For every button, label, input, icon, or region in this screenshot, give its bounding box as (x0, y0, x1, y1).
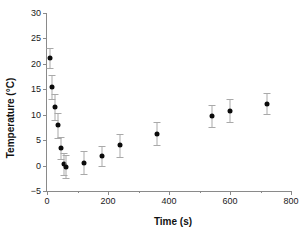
scatter-marker (63, 164, 68, 169)
error-bar-cap (117, 157, 124, 158)
y-tick-label: −5 (31, 187, 41, 196)
scatter-marker (55, 123, 60, 128)
x-tick (47, 191, 48, 195)
x-tick-minor (78, 191, 79, 193)
chart-figure: Temperature (°C) −5051015202530 02004006… (0, 0, 306, 235)
error-bar-cap (80, 151, 87, 152)
scatter-marker (48, 55, 53, 60)
error-bar-cap (62, 178, 69, 179)
scatter-marker (52, 105, 57, 110)
error-bar-cap (47, 68, 54, 69)
error-bar-cap (208, 105, 215, 106)
error-bar-cap (47, 48, 54, 49)
error-bar-cap (80, 174, 87, 175)
y-tick-label: 5 (36, 136, 41, 145)
error-bar-cap (98, 166, 105, 167)
error-bar-cap (57, 137, 64, 138)
error-bar-cap (51, 94, 58, 95)
y-tick-label: 20 (31, 59, 41, 68)
y-tick-label: 30 (31, 9, 41, 18)
error-bar-cap (263, 93, 270, 94)
x-tick-minor (139, 191, 140, 193)
error-bar-cap (48, 75, 55, 76)
x-tick (169, 191, 170, 195)
scatter-marker (264, 101, 269, 106)
scatter-marker (49, 85, 54, 90)
error-bar-cap (117, 134, 124, 135)
error-bar-cap (227, 99, 234, 100)
x-tick (291, 191, 292, 195)
y-axis-title: Temperature (°C) (2, 0, 18, 235)
scatter-marker (209, 113, 214, 118)
y-tick-label: 10 (31, 110, 41, 119)
y-tick-label: 0 (36, 161, 41, 170)
x-tick (108, 191, 109, 195)
x-tick-minor (200, 191, 201, 193)
error-bar-cap (54, 113, 61, 114)
x-tick-label: 400 (161, 197, 176, 206)
x-axis-title: Time (s) (0, 216, 306, 227)
x-axis-title-text: Time (s) (114, 216, 192, 227)
x-tick-label: 800 (283, 197, 298, 206)
y-tick-label: 15 (31, 85, 41, 94)
error-bar-cap (60, 153, 67, 154)
x-tick-label: 200 (100, 197, 115, 206)
scatter-marker (58, 146, 63, 151)
x-tick-minor (261, 191, 262, 193)
error-bar-cap (227, 122, 234, 123)
y-axis-title-text: Temperature (°C) (5, 77, 16, 158)
error-bar-cap (208, 127, 215, 128)
error-bar-cap (62, 155, 69, 156)
error-bar-cap (153, 145, 160, 146)
error-bar-cap (263, 114, 270, 115)
scatter-marker (118, 143, 123, 148)
x-tick (230, 191, 231, 195)
x-tick-label: 600 (222, 197, 237, 206)
y-tick-label: 25 (31, 34, 41, 43)
scatter-marker (81, 160, 86, 165)
scatter-marker (154, 131, 159, 136)
error-bar-cap (153, 122, 160, 123)
scatter-marker (99, 153, 104, 158)
x-tick-label: 0 (44, 197, 49, 206)
scatter-marker (228, 108, 233, 113)
error-bar-cap (98, 146, 105, 147)
